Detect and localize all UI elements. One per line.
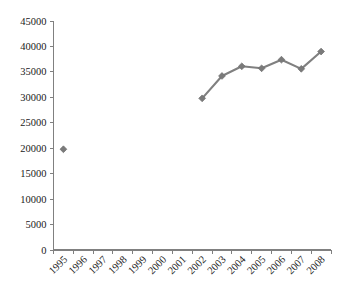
y-tick-label: 35000	[20, 66, 46, 77]
data-series-layer	[60, 48, 324, 153]
x-tick-label: 2000	[146, 254, 169, 277]
x-tick-label: 2007	[285, 254, 308, 277]
x-tick-label: 1998	[106, 254, 129, 277]
y-tick-label: 30000	[20, 92, 46, 103]
y-tick-label: 0	[41, 245, 46, 256]
x-tick-label: 2008	[304, 254, 327, 277]
y-tick-label: 5000	[26, 219, 47, 230]
data-point-marker	[278, 56, 285, 63]
data-point-marker	[258, 65, 265, 72]
x-tick-label: 2004	[225, 253, 248, 276]
x-tick-label: 2005	[245, 254, 268, 277]
x-tick-label: 1995	[47, 254, 70, 277]
data-point-marker	[238, 63, 245, 70]
y-axis-ticks: 0500010000150002000025000300003500040000…	[20, 16, 53, 256]
y-tick-label: 10000	[20, 194, 46, 205]
x-axis-ticks: 1995199619971998199920002001200220032004…	[47, 250, 331, 276]
y-tick-label: 45000	[20, 16, 46, 27]
y-tick-label: 15000	[20, 168, 46, 179]
x-tick-label: 1997	[86, 254, 109, 277]
x-tick-label: 1996	[67, 254, 90, 277]
y-tick-label: 40000	[20, 41, 46, 52]
data-point-marker	[60, 146, 67, 153]
y-tick-label: 20000	[20, 143, 46, 154]
x-axis-group: 1995199619971998199920002001200220032004…	[47, 250, 331, 276]
x-tick-label: 2002	[185, 254, 208, 277]
x-tick-label: 2006	[265, 254, 288, 277]
y-axis-group: 0500010000150002000025000300003500040000…	[20, 16, 53, 256]
line-chart: 0500010000150002000025000300003500040000…	[0, 0, 342, 296]
x-tick-label: 2001	[166, 254, 189, 277]
x-tick-label: 2003	[205, 254, 228, 277]
y-tick-label: 25000	[20, 117, 46, 128]
chart-container: 0500010000150002000025000300003500040000…	[0, 0, 342, 296]
x-tick-label: 1999	[126, 254, 149, 277]
